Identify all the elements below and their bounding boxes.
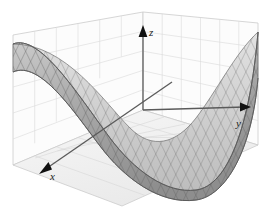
x-axis-label: x (49, 170, 55, 182)
y-axis-label: y (235, 117, 241, 129)
plot-canvas: y x z (0, 0, 275, 215)
z-axis-label: z (148, 26, 154, 38)
surface-plot-figure: y x z (0, 0, 275, 215)
